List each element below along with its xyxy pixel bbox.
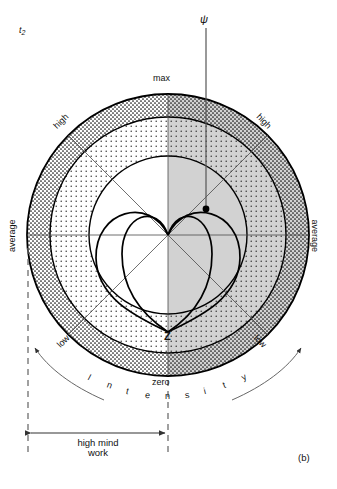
- center-z-marker: Z: [164, 331, 171, 343]
- label-average-left: average: [8, 219, 17, 252]
- time-label: t2: [19, 26, 25, 36]
- panel-label: (b): [298, 453, 310, 463]
- figure-panel: t2 ψ max zero high high average average …: [0, 0, 337, 489]
- arc-caption-letter: s: [184, 391, 190, 401]
- psi-point-marker: [203, 206, 210, 213]
- measure-caption-line2: work: [58, 448, 138, 458]
- measure-caption: high mind work: [58, 438, 138, 458]
- arc-caption-letter: n: [165, 392, 170, 401]
- psi-symbol-label: ψ: [200, 14, 208, 26]
- label-average-right: average: [310, 219, 319, 252]
- label-max: max: [153, 74, 170, 83]
- label-zero: zero: [152, 378, 170, 387]
